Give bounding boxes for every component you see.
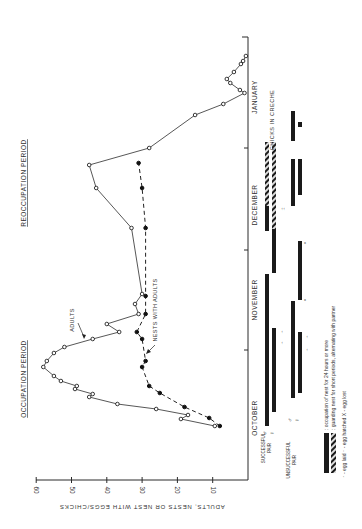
data-point	[222, 102, 226, 106]
data-point	[52, 351, 56, 355]
value-tick-label: 60	[33, 486, 40, 494]
data-point	[75, 384, 79, 388]
male-symbol: ♂	[287, 418, 293, 423]
value-tick-label: 10	[210, 486, 217, 494]
data-point	[232, 70, 236, 74]
legend-solid-text: : occupation of nest for 24 hours or mor…	[323, 340, 329, 430]
data-point	[243, 91, 247, 95]
data-point	[117, 330, 121, 334]
data-point	[91, 337, 95, 341]
data-point	[144, 312, 148, 316]
adults-series	[42, 54, 248, 428]
data-point	[186, 413, 190, 417]
value-tick-label: 40	[104, 486, 111, 494]
reoccupation-period-label: REOCCUPATION PERIOD	[20, 139, 27, 227]
svg-text:↑: ↑	[281, 340, 283, 345]
data-point	[140, 186, 144, 190]
data-point	[87, 395, 91, 399]
data-point	[87, 163, 91, 167]
data-point	[42, 365, 46, 369]
svg-text:CHICKS IN CRECHE: CHICKS IN CRECHE	[269, 90, 275, 151]
svg-text:SUCCESSFUL: SUCCESSFUL	[261, 432, 266, 463]
data-point	[225, 77, 229, 81]
data-point	[193, 113, 197, 117]
data-point	[154, 407, 158, 411]
data-point	[158, 391, 162, 395]
value-tick-label: 30	[139, 486, 146, 494]
data-point	[105, 322, 109, 326]
svg-text:↑: ↑	[306, 347, 308, 352]
data-point	[144, 294, 148, 298]
data-point	[140, 365, 144, 369]
data-point	[135, 330, 139, 334]
value-tick-label: 20	[174, 486, 181, 494]
data-point	[137, 161, 141, 165]
svg-text:PAIR: PAIR	[292, 454, 297, 465]
svg-text:x: x	[304, 240, 306, 245]
data-point	[213, 424, 217, 428]
nests-with-adults-series	[135, 161, 222, 428]
unsuccessful-pair-bars: UNSUCCESSFUL PAIR ♂ ♀ ↑ ↑ x x	[286, 111, 308, 478]
creche-label: CHICKS IN CRECHE	[269, 90, 275, 151]
value-axis: 102030405060	[33, 477, 248, 494]
data-point	[144, 359, 148, 363]
data-point	[229, 81, 233, 85]
data-point	[59, 379, 63, 383]
female-symbol: ♀	[269, 431, 275, 436]
svg-text:↑: ↑	[281, 329, 283, 334]
time-axis	[242, 37, 248, 480]
female-symbol: ♀	[294, 418, 300, 423]
month-label-december: DECEMBER	[251, 185, 258, 226]
svg-text:↑: ↑	[306, 334, 308, 339]
data-point	[147, 146, 151, 150]
data-point	[183, 405, 187, 409]
svg-text:x: x	[304, 297, 306, 302]
data-point	[218, 424, 222, 428]
data-point	[244, 54, 248, 58]
month-label-november: NOVEMBER	[251, 279, 258, 320]
data-point	[91, 392, 95, 396]
data-point	[144, 226, 148, 230]
data-point	[45, 359, 49, 363]
svg-text:UNSUCCESSFUL: UNSUCCESSFUL	[286, 441, 291, 478]
value-tick-label: 50	[69, 486, 76, 494]
data-point	[130, 226, 134, 230]
legend-hatched-text: : guarding nest for short periods, alter…	[330, 305, 336, 430]
data-point	[137, 312, 141, 316]
data-point	[140, 292, 144, 296]
data-point	[133, 302, 137, 306]
occupation-period-label: OCCUPATION PERIOD	[20, 340, 27, 418]
svg-text:PAIR: PAIR	[267, 442, 272, 453]
successful-pair-bars: SUCCESSFUL PAIR ♂ ♀ ↑ ↑ ↑↑	[261, 142, 285, 463]
legend-hatched-swatch	[331, 433, 336, 473]
male-symbol: ♂	[262, 431, 268, 436]
legend-symbols-text: ↑ - egg laid ↑ - egg hatched X - egg los…	[341, 390, 347, 478]
data-point	[116, 402, 120, 406]
month-label-january: JANUARY	[251, 80, 258, 114]
data-point	[140, 337, 144, 341]
svg-text:↑↑: ↑↑	[281, 206, 285, 211]
data-point	[238, 88, 242, 92]
data-point	[207, 416, 211, 420]
nesting-chart: 102030405060 ADULTS, NESTS OR NEST WITH …	[0, 0, 362, 529]
data-point	[52, 374, 56, 378]
month-label-october: OCTOBER	[251, 400, 258, 436]
data-point	[63, 345, 67, 349]
data-point	[241, 59, 245, 63]
adults-annotation: ADULTS	[69, 308, 86, 339]
value-axis-label: ADULTS, NESTS OR NEST WITH EGGS/CHICKS	[59, 504, 225, 510]
legend-solid-swatch	[324, 433, 329, 473]
data-point	[147, 384, 151, 388]
svg-text:ADULTS: ADULTS	[69, 308, 75, 332]
legend: : occupation of nest for 24 hours or mor…	[323, 305, 347, 478]
data-point	[94, 186, 98, 190]
data-point	[179, 417, 183, 421]
nests-annotation: NESTS WITH ADULTS	[146, 278, 158, 354]
svg-text:NESTS WITH ADULTS: NESTS WITH ADULTS	[152, 278, 158, 341]
